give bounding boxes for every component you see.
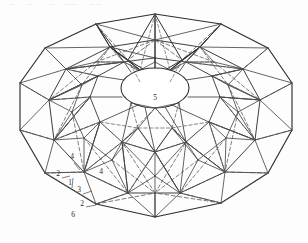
callout-label-3: 3 [77, 185, 81, 194]
callout-label-6: 6 [71, 210, 75, 219]
lower-centre-mesh-hidden [100, 103, 209, 152]
callout-label-5: 5 [153, 93, 157, 102]
callout-label-4b: 4 [99, 167, 103, 176]
callout-label-1: 1 [68, 178, 72, 187]
callout-label-4a: 4 [70, 152, 74, 161]
callout-label-2a: 2 [56, 169, 60, 178]
callout-label-2b: 2 [80, 199, 84, 208]
diagram-geometry [20, 14, 292, 217]
outer-tier-triangulation [20, 24, 292, 217]
outer-boundary-polygon [20, 14, 292, 217]
central-oculus [121, 68, 189, 108]
page-root: · — ·· — ··· — · —— ·· —— ··· [0, 0, 308, 243]
radial-posts-outer [20, 14, 292, 217]
dome-diagram-svg: 4 4 2 1 3 2 6 5 [0, 0, 308, 243]
dome-diagram-figure: 4 4 2 1 3 2 6 5 [0, 0, 308, 243]
